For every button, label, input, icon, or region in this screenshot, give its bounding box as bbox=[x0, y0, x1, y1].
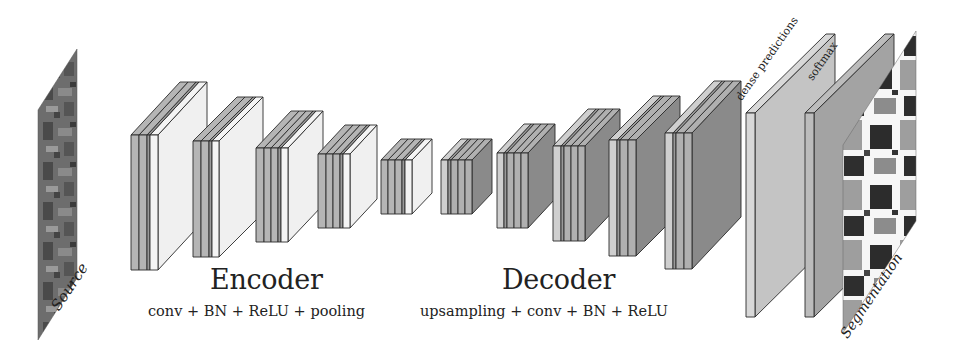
encoder-title: Encoder bbox=[210, 264, 323, 295]
decoder-blocks bbox=[441, 81, 741, 269]
layer-block-enc3 bbox=[256, 111, 323, 242]
encoder-blocks bbox=[131, 82, 432, 270]
encoder-subtitle: conv + BN + ReLU + pooling bbox=[148, 303, 365, 319]
layer-block-enc4 bbox=[318, 125, 377, 228]
layer-block-enc5 bbox=[381, 139, 432, 214]
decoder-subtitle: upsampling + conv + BN + ReLU bbox=[420, 303, 668, 319]
layer-block-dec2 bbox=[497, 124, 555, 228]
decoder-title: Decoder bbox=[502, 264, 615, 295]
layer-block-dec1 bbox=[441, 139, 492, 214]
